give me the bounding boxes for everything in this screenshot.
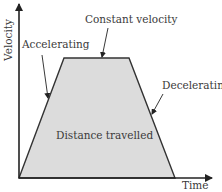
constant-velocity-label: Constant velocity <box>85 13 178 25</box>
decelerating-label: Decelerating <box>162 79 222 91</box>
constant-velocity-pointer-arrow <box>102 28 108 57</box>
distance-travelled-label: Distance travelled <box>56 129 153 141</box>
distance-travelled-area <box>19 58 175 178</box>
accelerating-label: Accelerating <box>21 38 90 50</box>
y-axis-label: Velocity <box>2 19 14 62</box>
velocity-time-diagram: Velocity Time Accelerating Constant velo… <box>0 0 222 192</box>
accelerating-pointer-arrow <box>42 55 48 98</box>
decelerating-pointer-arrow <box>152 94 163 114</box>
x-axis-label: Time <box>182 179 209 191</box>
